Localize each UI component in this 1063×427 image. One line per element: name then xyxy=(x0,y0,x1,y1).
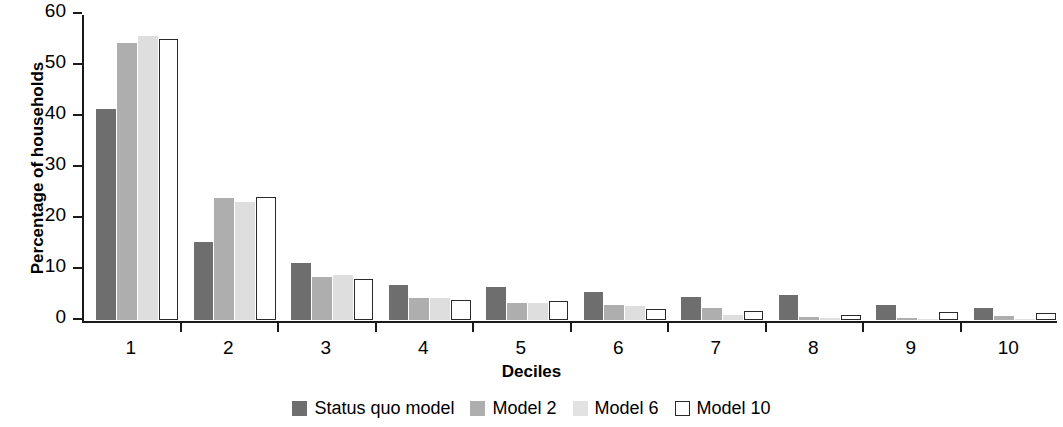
x-tick-label: 9 xyxy=(881,337,941,359)
legend-item[interactable]: Model 10 xyxy=(675,398,771,419)
legend-item[interactable]: Model 6 xyxy=(573,398,659,419)
bar xyxy=(646,309,666,320)
bar xyxy=(333,275,353,320)
y-tick-label: 60 xyxy=(26,0,66,22)
bar xyxy=(939,312,959,320)
x-tick xyxy=(277,322,279,332)
bar-group-bars xyxy=(584,14,668,320)
bar xyxy=(799,317,819,320)
bar xyxy=(876,305,896,320)
bar-group xyxy=(486,14,570,320)
bar xyxy=(214,198,234,320)
bar-group-bars xyxy=(389,14,473,320)
y-tick: 50 xyxy=(73,63,82,65)
legend-label: Model 10 xyxy=(697,398,771,419)
y-tick: 60 xyxy=(73,12,82,14)
bar-group xyxy=(389,14,473,320)
x-tick xyxy=(862,322,864,332)
legend-swatch-icon xyxy=(573,401,588,416)
legend-item[interactable]: Status quo model xyxy=(292,398,454,419)
x-tick xyxy=(472,322,474,332)
y-tick-label: 30 xyxy=(26,153,66,175)
bar xyxy=(994,316,1014,320)
bar-group-bars xyxy=(876,14,960,320)
y-tick: 40 xyxy=(73,114,82,116)
bar xyxy=(820,318,840,320)
bar xyxy=(702,308,722,320)
bar xyxy=(681,297,701,320)
bar-group xyxy=(779,14,863,320)
legend-label: Model 6 xyxy=(595,398,659,419)
y-tick-label: 0 xyxy=(26,306,66,328)
y-tick-label: 20 xyxy=(26,204,66,226)
x-tick-label: 8 xyxy=(783,337,843,359)
bar xyxy=(897,318,917,320)
x-tick xyxy=(667,322,669,332)
bar xyxy=(389,285,409,320)
bar-group-bars xyxy=(779,14,863,320)
x-tick xyxy=(765,322,767,332)
x-tick-label: 2 xyxy=(198,337,258,359)
bar xyxy=(528,303,548,320)
legend-swatch-icon xyxy=(292,401,307,416)
x-axis-title: Deciles xyxy=(0,362,1063,382)
legend-item[interactable]: Model 2 xyxy=(470,398,556,419)
y-tick: 0 xyxy=(73,318,82,320)
bar-group-bars xyxy=(486,14,570,320)
y-tick-label: 50 xyxy=(26,51,66,73)
bar xyxy=(974,308,994,320)
legend-label: Model 2 xyxy=(492,398,556,419)
bar xyxy=(584,292,604,320)
bar xyxy=(549,301,569,320)
bar xyxy=(625,306,645,320)
legend-swatch-icon xyxy=(470,401,485,416)
plot-area: 0102030405060 12345678910 xyxy=(82,15,1057,322)
bar xyxy=(312,277,332,320)
y-tick: 20 xyxy=(73,216,82,218)
x-tick-label: 7 xyxy=(686,337,746,359)
bar xyxy=(409,298,429,320)
x-tick xyxy=(180,322,182,332)
y-tick: 10 xyxy=(73,267,82,269)
bar-group xyxy=(876,14,960,320)
bar xyxy=(723,315,743,320)
bar xyxy=(779,295,799,320)
bar-group-bars xyxy=(96,14,180,320)
bar xyxy=(96,109,116,320)
bar xyxy=(1015,319,1035,321)
x-tick-label: 3 xyxy=(296,337,356,359)
x-tick-label: 5 xyxy=(491,337,551,359)
bar-group-bars xyxy=(974,14,1058,320)
bar xyxy=(256,197,276,320)
bar xyxy=(451,300,471,320)
x-tick-label: 6 xyxy=(588,337,648,359)
bar xyxy=(486,287,506,320)
x-tick xyxy=(570,322,572,332)
x-tick xyxy=(960,322,962,332)
bar-group xyxy=(584,14,668,320)
x-tick-label: 4 xyxy=(393,337,453,359)
bar xyxy=(918,319,938,321)
legend-swatch-icon xyxy=(675,401,690,416)
legend-label: Status quo model xyxy=(314,398,454,419)
x-tick-label: 10 xyxy=(978,337,1038,359)
bar xyxy=(1036,313,1056,320)
bar xyxy=(841,315,861,320)
bar xyxy=(159,39,179,320)
y-tick-label: 10 xyxy=(26,255,66,277)
bar-group-bars xyxy=(291,14,375,320)
bar xyxy=(604,305,624,320)
y-axis-line xyxy=(82,15,84,323)
bar xyxy=(117,43,137,320)
bar xyxy=(291,263,311,320)
y-tick-label: 40 xyxy=(26,102,66,124)
bar-group xyxy=(974,14,1058,320)
bar xyxy=(138,36,158,320)
bar-group xyxy=(96,14,180,320)
y-tick: 30 xyxy=(73,165,82,167)
bar xyxy=(354,279,374,320)
bar xyxy=(507,303,527,320)
bar xyxy=(235,202,255,320)
chart-legend: Status quo modelModel 2Model 6Model 10 xyxy=(0,398,1063,419)
x-tick xyxy=(375,322,377,332)
